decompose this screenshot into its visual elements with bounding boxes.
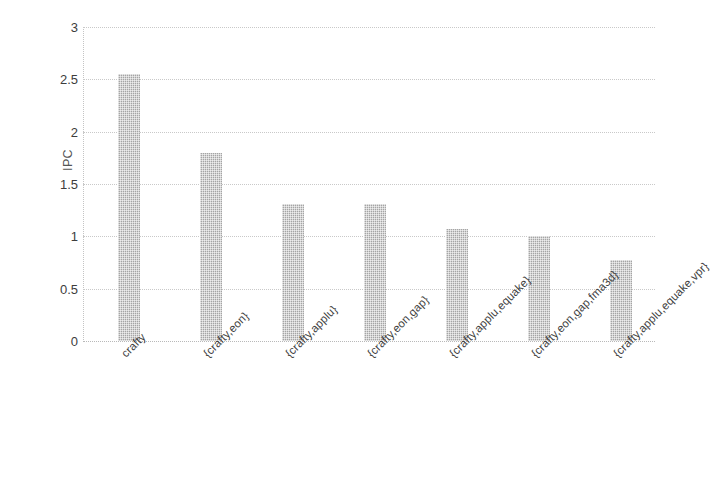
x-axis-tick-label: {crafty,eon} xyxy=(201,310,251,360)
x-axis-tick-label: {crafty,applu,equake,vpr} xyxy=(611,260,711,360)
x-axis-tick-label: crafty xyxy=(119,331,148,360)
x-axis-tick-label: {crafty,applu,equake} xyxy=(447,274,533,360)
x-axis-tick-label: {crafty,applu} xyxy=(283,303,339,359)
x-axis-tick-label: {crafty,eon,gap} xyxy=(365,294,431,360)
x-axis-tick-label: {crafty,eon,gap,fma3d} xyxy=(529,268,620,359)
